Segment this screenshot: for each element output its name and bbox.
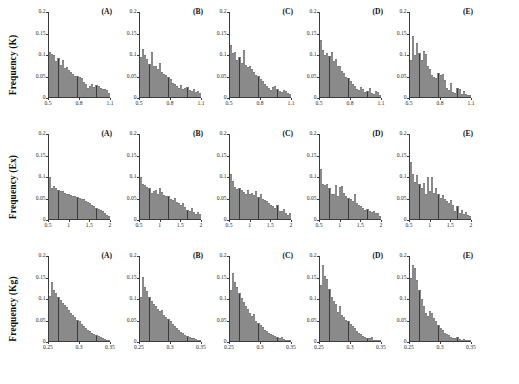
histogram-bar bbox=[289, 213, 291, 219]
plot-area: 00.050.10.150.20.50.81.1 bbox=[48, 12, 110, 98]
x-tick-label: 0.8 bbox=[76, 101, 83, 107]
histogram-panel: (C)00.050.10.150.20.50.81.1 bbox=[207, 4, 295, 126]
histogram-bars bbox=[410, 12, 471, 97]
y-tick-label: 0.05 bbox=[127, 318, 137, 324]
x-tick-label: 2 bbox=[290, 223, 293, 229]
y-tick-mark bbox=[137, 321, 139, 322]
y-tick-label: 0.15 bbox=[127, 153, 137, 159]
y-tick-label: 0.15 bbox=[307, 153, 317, 159]
y-tick-mark bbox=[46, 199, 48, 200]
y-tick-mark bbox=[46, 134, 48, 135]
plot-area: 00.050.10.150.20.511.52 bbox=[409, 134, 471, 220]
x-tick-mark bbox=[409, 342, 410, 344]
y-tick-label: 0.1 bbox=[130, 296, 137, 302]
x-tick-mark bbox=[79, 342, 80, 344]
y-tick-mark bbox=[46, 321, 48, 322]
x-tick-label: 1.5 bbox=[357, 223, 364, 229]
y-tick-mark bbox=[46, 256, 48, 257]
y-tick-label: 0.15 bbox=[36, 31, 46, 37]
y-tick-label: 0.15 bbox=[397, 275, 407, 281]
y-tick-label: 0.2 bbox=[130, 9, 137, 15]
y-tick-mark bbox=[317, 77, 319, 78]
histogram-bar bbox=[469, 216, 471, 219]
plot-area: 00.050.10.150.20.50.81.1 bbox=[409, 12, 471, 98]
histogram-panel: (E)00.050.10.150.20.511.52 bbox=[387, 126, 475, 248]
x-axis-line bbox=[139, 219, 201, 220]
y-tick-mark bbox=[407, 299, 409, 300]
y-tick-mark bbox=[137, 278, 139, 279]
x-tick-mark bbox=[48, 98, 49, 100]
y-tick-mark bbox=[46, 278, 48, 279]
y-tick-label: 0.05 bbox=[36, 196, 46, 202]
x-tick-mark bbox=[48, 342, 49, 344]
histogram-bars bbox=[49, 12, 110, 97]
y-tick-label: 0.2 bbox=[220, 253, 227, 259]
x-tick-label: 1 bbox=[338, 223, 341, 229]
y-tick-label: 0.15 bbox=[127, 275, 137, 281]
y-tick-mark bbox=[227, 77, 229, 78]
x-tick-label: 0.25 bbox=[43, 345, 53, 351]
y-tick-label: 0.05 bbox=[217, 318, 227, 324]
plot-area: 00.050.10.150.20.250.30.35 bbox=[409, 256, 471, 342]
x-tick-label: 2 bbox=[470, 223, 473, 229]
y-tick-label: 0.1 bbox=[310, 52, 317, 58]
x-tick-mark bbox=[409, 98, 410, 100]
x-tick-label: 1.1 bbox=[288, 101, 295, 107]
x-tick-label: 0.8 bbox=[167, 101, 174, 107]
x-tick-label: 0.3 bbox=[257, 345, 264, 351]
x-tick-mark bbox=[201, 98, 202, 100]
x-tick-mark bbox=[69, 220, 70, 222]
y-tick-label: 0.1 bbox=[39, 296, 46, 302]
x-tick-mark bbox=[471, 220, 472, 222]
y-tick-label: 0.1 bbox=[39, 174, 46, 180]
y-tick-label: 0.2 bbox=[310, 9, 317, 15]
histogram-bars bbox=[140, 256, 201, 341]
y-tick-mark bbox=[137, 134, 139, 135]
x-tick-mark bbox=[89, 220, 90, 222]
y-tick-mark bbox=[317, 156, 319, 157]
y-tick-label: 0.1 bbox=[220, 296, 227, 302]
histogram-panel: (D)00.050.10.150.20.250.30.35 bbox=[297, 248, 385, 370]
panel-row: Frequency (Ex)(A)00.050.10.150.20.511.52… bbox=[0, 126, 519, 248]
x-tick-label: 1 bbox=[67, 223, 70, 229]
x-tick-mark bbox=[360, 220, 361, 222]
y-tick-label: 0.05 bbox=[397, 196, 407, 202]
x-tick-mark bbox=[471, 342, 472, 344]
y-tick-label: 0.05 bbox=[36, 74, 46, 80]
y-axis-label: Frequency (Kg) bbox=[2, 248, 24, 370]
histogram-bar bbox=[379, 216, 381, 219]
y-tick-label: 0.05 bbox=[397, 74, 407, 80]
histogram-bars bbox=[230, 134, 291, 219]
y-tick-mark bbox=[407, 55, 409, 56]
y-tick-mark bbox=[227, 177, 229, 178]
histogram-panel: (B)00.050.10.150.20.511.52 bbox=[117, 126, 205, 248]
x-tick-mark bbox=[229, 98, 230, 100]
panel-grid: Frequency (K)(A)00.050.10.150.20.50.81.1… bbox=[0, 0, 519, 368]
x-tick-mark bbox=[260, 342, 261, 344]
y-tick-mark bbox=[227, 321, 229, 322]
x-tick-label: 0.5 bbox=[406, 223, 413, 229]
y-tick-mark bbox=[407, 12, 409, 13]
x-tick-label: 1 bbox=[158, 223, 161, 229]
y-tick-mark bbox=[407, 199, 409, 200]
x-tick-mark bbox=[110, 220, 111, 222]
x-tick-label: 0.5 bbox=[226, 223, 233, 229]
y-tick-mark bbox=[407, 134, 409, 135]
x-tick-label: 0.5 bbox=[136, 101, 143, 107]
y-tick-mark bbox=[317, 199, 319, 200]
plot-area: 00.050.10.150.20.50.81.1 bbox=[319, 12, 381, 98]
y-tick-label: 0.15 bbox=[36, 275, 46, 281]
panel-row: Frequency (Kg)(A)00.050.10.150.20.250.30… bbox=[0, 248, 519, 370]
x-tick-mark bbox=[180, 220, 181, 222]
y-tick-label: 0.1 bbox=[400, 52, 407, 58]
y-tick-label: 0.2 bbox=[400, 253, 407, 259]
y-tick-label: 0.1 bbox=[130, 174, 137, 180]
x-tick-label: 0.3 bbox=[167, 345, 174, 351]
x-tick-mark bbox=[319, 342, 320, 344]
plot-area: 00.050.10.150.20.511.52 bbox=[48, 134, 110, 220]
y-tick-label: 0.2 bbox=[310, 253, 317, 259]
y-tick-label: 0.15 bbox=[307, 275, 317, 281]
y-tick-mark bbox=[46, 156, 48, 157]
y-tick-label: 0.2 bbox=[130, 131, 137, 137]
x-tick-label: 0.25 bbox=[314, 345, 324, 351]
